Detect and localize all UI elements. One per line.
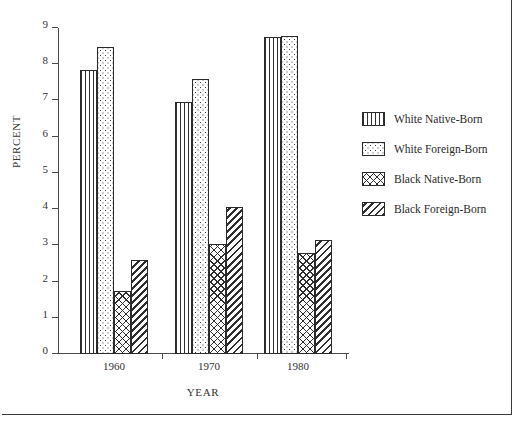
- bar: [209, 244, 226, 354]
- y-tick-label: 8: [43, 55, 49, 66]
- y-tick-label: 7: [43, 91, 49, 102]
- chart-page: PERCENT YEAR 0123456789 196019701980 Whi…: [0, 0, 514, 423]
- bar: [114, 291, 131, 354]
- x-tick-label-1980: 1980: [264, 360, 332, 372]
- frame-border-right: [511, 0, 512, 414]
- bar: [281, 36, 298, 354]
- plot-area: 0123456789 196019701980: [58, 28, 348, 354]
- bar-group-1960: [80, 28, 148, 354]
- bar: [80, 70, 97, 354]
- bar-group-1970: [175, 28, 243, 354]
- legend-item[interactable]: White Foreign-Born: [362, 134, 502, 164]
- bar: [131, 260, 148, 354]
- legend-item[interactable]: Black Foreign-Born: [362, 194, 502, 224]
- y-tick-label: 3: [43, 236, 49, 247]
- legend-item[interactable]: White Native-Born: [362, 104, 502, 134]
- bar: [192, 79, 209, 354]
- y-tick-label: 0: [43, 345, 49, 356]
- legend-swatch-icon: [362, 172, 385, 186]
- bar: [226, 207, 243, 354]
- bar: [97, 47, 114, 354]
- y-axis-label: PERCENT: [10, 115, 22, 168]
- x-tick-2: [346, 354, 347, 359]
- bars-layer: [58, 28, 348, 354]
- y-tick-label: 2: [43, 273, 49, 284]
- x-tick-label-1970: 1970: [175, 360, 243, 372]
- legend-item[interactable]: Black Native-Born: [362, 164, 502, 194]
- legend-label: White Native-Born: [394, 113, 482, 125]
- x-tick-1: [257, 354, 258, 359]
- bar-group-1980: [264, 28, 332, 354]
- frame-border-bottom: [2, 414, 512, 415]
- bar: [298, 253, 315, 354]
- chart-legend: White Native-BornWhite Foreign-BornBlack…: [362, 104, 502, 224]
- legend-swatch-icon: [362, 112, 385, 126]
- legend-label: Black Foreign-Born: [394, 203, 486, 215]
- legend-label: Black Native-Born: [394, 173, 481, 185]
- legend-swatch-icon: [362, 142, 385, 156]
- bar: [264, 37, 281, 354]
- y-tick-label: 4: [43, 200, 49, 211]
- x-tick-label-1960: 1960: [80, 360, 148, 372]
- bar: [175, 102, 192, 354]
- legend-label: White Foreign-Born: [394, 143, 488, 155]
- y-tick-label: 5: [43, 164, 49, 175]
- x-axis-label: YEAR: [58, 386, 348, 398]
- x-tick-0: [162, 354, 163, 359]
- y-tick-label: 1: [43, 309, 49, 320]
- y-tick-label: 6: [43, 128, 49, 139]
- legend-swatch-icon: [362, 202, 385, 216]
- y-tick-label: 9: [43, 19, 49, 30]
- bar: [315, 240, 332, 354]
